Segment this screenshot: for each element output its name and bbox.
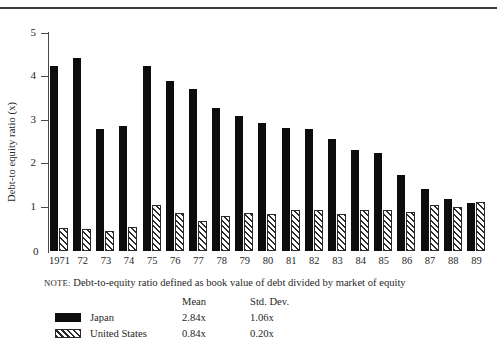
y-axis-tick-4: 4 <box>41 76 48 77</box>
stats-header-row: Mean Std. Dev. <box>55 293 385 309</box>
x-tick-label-79: 79 <box>233 254 256 268</box>
bar-united-states-87 <box>430 205 439 251</box>
bar-japan-73 <box>96 129 104 251</box>
bar-group-80 <box>256 34 279 251</box>
bar-group-79 <box>233 34 256 251</box>
plot-area: 12345 <box>48 34 488 251</box>
bar-group-86 <box>395 34 418 251</box>
bar-group-83 <box>326 34 349 251</box>
bar-japan-77 <box>189 89 197 251</box>
y-tick-label-1: 1 <box>31 200 37 213</box>
y-axis-tick-1: 1 <box>41 207 48 208</box>
x-tick-label-82: 82 <box>303 254 326 268</box>
stats-header-std-dev: Std. Dev. <box>250 296 330 307</box>
bar-united-states-75 <box>152 205 161 251</box>
x-tick-label-89: 89 <box>465 254 488 268</box>
x-tick-label-81: 81 <box>280 254 303 268</box>
bar-japan-89 <box>467 203 475 251</box>
bar-group-82 <box>303 34 326 251</box>
bar-japan-76 <box>166 81 174 251</box>
bar-united-states-76 <box>175 213 184 251</box>
x-tick-label-75: 75 <box>141 254 164 268</box>
x-tick-label-72: 72 <box>71 254 94 268</box>
x-tick-label-73: 73 <box>94 254 117 268</box>
chart-note: NOTE: Debt-to-equity ratio defined as bo… <box>44 276 406 290</box>
y-tick-label-2: 2 <box>31 156 37 169</box>
bar-japan-86 <box>397 175 405 251</box>
bar-japan-88 <box>444 199 452 251</box>
bar-japan-1971 <box>50 66 58 251</box>
x-tick-label-1971: 1971 <box>48 254 71 268</box>
bar-group-81 <box>280 34 303 251</box>
bar-group-75 <box>141 34 164 251</box>
bar-japan-81 <box>282 128 290 251</box>
y-axis-tick-2: 2 <box>41 163 48 164</box>
x-tick-label-83: 83 <box>326 254 349 268</box>
bar-united-states-88 <box>453 207 462 251</box>
legend-row-united-states: United States 0.84x 0.20x <box>55 325 385 341</box>
bar-japan-87 <box>421 189 429 251</box>
legend-swatch-placeholder <box>55 297 81 306</box>
legend-stats-table: Mean Std. Dev. Japan 2.84x 1.06x United … <box>55 293 385 341</box>
bar-japan-72 <box>73 58 81 251</box>
legend-swatch-united-states <box>55 329 81 338</box>
bar-japan-74 <box>119 126 127 251</box>
bar-japan-83 <box>328 139 336 251</box>
bar-united-states-80 <box>267 214 276 251</box>
bar-group-77 <box>187 34 210 251</box>
bar-united-states-77 <box>198 221 207 251</box>
y-tick-label-5: 5 <box>31 26 37 39</box>
bar-group-85 <box>372 34 395 251</box>
bar-japan-85 <box>374 153 382 251</box>
bar-united-states-89 <box>476 202 485 251</box>
legend-row-japan: Japan 2.84x 1.06x <box>55 309 385 325</box>
bar-group-78 <box>210 34 233 251</box>
bar-japan-80 <box>258 123 266 251</box>
bar-united-states-78 <box>221 216 230 251</box>
bar-japan-79 <box>235 116 243 251</box>
x-tick-label-84: 84 <box>349 254 372 268</box>
figure-container: Debt-to equity ratio (x) 0 12345 1971727… <box>0 9 497 344</box>
note-body-text: Debt-to-equity ratio defined as book val… <box>73 277 405 288</box>
x-tick-label-87: 87 <box>419 254 442 268</box>
x-tick-label-80: 80 <box>256 254 279 268</box>
x-tick-label-77: 77 <box>187 254 210 268</box>
y-axis-tick-5: 5 <box>41 33 48 34</box>
bar-group-88 <box>442 34 465 251</box>
x-tick-label-78: 78 <box>210 254 233 268</box>
bar-japan-75 <box>143 66 151 251</box>
x-tick-label-74: 74 <box>117 254 140 268</box>
x-tick-label-88: 88 <box>442 254 465 268</box>
bar-united-states-86 <box>406 212 415 251</box>
stats-header-mean: Mean <box>182 296 250 307</box>
x-axis-tick-labels: 1971727374757677787980818283848586878889 <box>48 254 488 270</box>
bar-group-72 <box>71 34 94 251</box>
y-tick-label-3: 3 <box>31 113 37 126</box>
legend-label-japan: Japan <box>90 312 182 323</box>
stats-std-dev-united-states: 0.20x <box>250 328 330 339</box>
x-tick-label-76: 76 <box>164 254 187 268</box>
bar-group-1971 <box>48 34 71 251</box>
bar-united-states-85 <box>383 210 392 251</box>
x-tick-label-86: 86 <box>395 254 418 268</box>
bar-group-87 <box>419 34 442 251</box>
bar-united-states-73 <box>105 231 114 251</box>
bar-group-89 <box>465 34 488 251</box>
stats-mean-japan: 2.84x <box>182 312 250 323</box>
bar-japan-84 <box>351 150 359 251</box>
y-axis-tick-3: 3 <box>41 120 48 121</box>
y-tick-label-0: 0 <box>33 245 39 257</box>
stats-mean-united-states: 0.84x <box>182 328 250 339</box>
bar-group-84 <box>349 34 372 251</box>
bar-group-73 <box>94 34 117 251</box>
bar-united-states-81 <box>291 210 300 251</box>
note-prefix-label: NOTE: <box>44 278 71 288</box>
bar-group-74 <box>117 34 140 251</box>
legend-label-united-states: United States <box>90 328 182 339</box>
bar-group-76 <box>164 34 187 251</box>
bar-united-states-74 <box>128 227 137 251</box>
x-tick-label-85: 85 <box>372 254 395 268</box>
legend-swatch-japan <box>55 313 81 322</box>
y-axis-title: Debt-to equity ratio (x) <box>6 67 22 237</box>
y-tick-label-4: 4 <box>31 69 37 82</box>
